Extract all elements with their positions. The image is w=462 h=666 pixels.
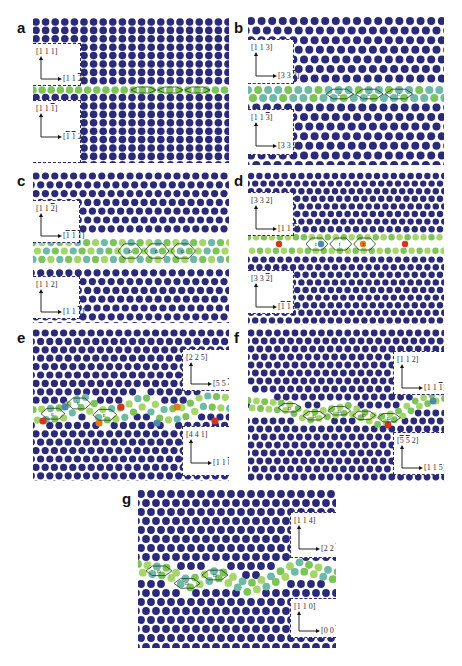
- x-direction-label: [1 1 3]: [278, 302, 299, 311]
- svg-text:E: E: [103, 413, 106, 418]
- y-direction-label: [2 2 5]: [186, 353, 207, 362]
- orientation-box-lower: [1 1 2][1 1 1]: [33, 276, 80, 319]
- x-direction-label: [1 1 2]: [63, 74, 84, 83]
- svg-text:D: D: [387, 416, 391, 421]
- y-direction-label: [1 1 1]: [36, 104, 57, 113]
- svg-text:E: E: [51, 412, 54, 417]
- panel-letter-b: b: [234, 20, 243, 35]
- orientation-box-lower: [4 4 1][1 1 8]: [182, 426, 229, 476]
- svg-text:E: E: [77, 401, 80, 406]
- y-direction-label: [4 4 1]: [186, 430, 207, 439]
- svg-text:D: D: [312, 414, 316, 419]
- panel-f: DDDDD[1 1 2][1 1 1][5 5 2][1 1 5]: [248, 329, 444, 481]
- panel-letter-f: f: [234, 330, 239, 345]
- panel-letter-a: a: [17, 20, 25, 35]
- svg-text:D: D: [155, 249, 159, 254]
- x-direction-label: [3 3 2]: [278, 141, 299, 150]
- orientation-box-lower: [5 5 2][1 1 5]: [393, 432, 444, 475]
- panel-letter-c: c: [17, 173, 25, 188]
- orientation-box-upper: [1 1 2][1 1 1]: [393, 351, 444, 395]
- svg-text:D: D: [157, 569, 161, 574]
- svg-text:D: D: [362, 413, 366, 418]
- x-direction-label: [0 0 1]: [321, 626, 336, 635]
- panel-g: DDD[1 1 4][2 2 1][1 1 0][0 0 1]: [138, 490, 336, 648]
- x-direction-label: [1 1 1]: [63, 231, 84, 240]
- y-direction-label: [1 1 2]: [36, 204, 57, 213]
- panel-letter-d: d: [234, 173, 243, 188]
- x-direction-label: [3 3 2]: [278, 71, 299, 80]
- panel-letter-g: g: [122, 491, 131, 506]
- y-direction-label: [1 1 0]: [294, 602, 315, 611]
- panel-e: EEE[2 2 5][5 5 4][4 4 1][1 1 8]: [33, 329, 229, 481]
- orientation-box-lower: [1 1 1][1 1 2]: [33, 100, 81, 163]
- y-direction-label: [1 1 1]: [36, 47, 57, 56]
- x-direction-label: [1 1 8]: [213, 458, 229, 467]
- x-direction-label: [5 5 4]: [213, 379, 229, 388]
- orientation-box-upper: [2 2 5][5 5 4]: [182, 349, 229, 391]
- svg-text:I: I: [315, 242, 317, 247]
- svg-text:D: D: [213, 573, 217, 578]
- panel-d: III[3 3 2][1 1 3][3 3 2][1 1 3]: [248, 172, 444, 325]
- x-direction-label: [1 1 2]: [63, 132, 84, 141]
- svg-text:D: D: [128, 249, 132, 254]
- svg-text:D: D: [337, 409, 341, 414]
- y-direction-label: [1 1 2]: [397, 355, 418, 364]
- panel-a: [1 1 1][1 1 2][1 1 1][1 1 2]: [33, 18, 229, 163]
- orientation-box-lower: [1 1 0][0 0 1]: [290, 598, 336, 638]
- panel-b: CCC[1 1 3][3 3 2][1 1 3][3 3 2]: [248, 17, 444, 165]
- orientation-box-upper: [3 3 2][1 1 3]: [248, 192, 294, 236]
- orientation-box-upper: [1 1 1][1 1 2]: [33, 43, 81, 86]
- orientation-box-upper: [1 1 2][1 1 1]: [33, 200, 80, 243]
- y-direction-label: [1 1 3]: [251, 43, 272, 52]
- y-direction-label: [1 1 2]: [36, 280, 57, 289]
- x-direction-label: [1 1 5]: [424, 463, 444, 472]
- x-direction-label: [2 2 1]: [321, 544, 336, 553]
- svg-text:D: D: [287, 406, 291, 411]
- svg-text:I: I: [339, 242, 341, 247]
- y-direction-label: [3 3 2]: [251, 274, 272, 283]
- orientation-box-upper: [1 1 3][3 3 2]: [248, 39, 294, 84]
- y-direction-label: [1 1 3]: [251, 113, 272, 122]
- y-direction-label: [5 5 2]: [397, 436, 418, 445]
- x-direction-label: [1 1 1]: [63, 307, 84, 316]
- orientation-box-lower: [1 1 3][3 3 2]: [248, 109, 294, 155]
- x-direction-label: [1 1 1]: [424, 383, 444, 392]
- x-direction-label: [1 1 3]: [278, 224, 299, 233]
- panel-c: DDD[1 1 2][1 1 1][1 1 2][1 1 1]: [33, 172, 229, 323]
- svg-text:D: D: [185, 581, 189, 586]
- svg-text:D: D: [181, 249, 185, 254]
- orientation-box-upper: [1 1 4][2 2 1]: [290, 512, 336, 558]
- orientation-box-lower: [3 3 2][1 1 3]: [248, 270, 294, 314]
- y-direction-label: [3 3 2]: [251, 196, 272, 205]
- y-direction-label: [1 1 4]: [294, 516, 315, 525]
- panel-letter-e: e: [17, 330, 25, 345]
